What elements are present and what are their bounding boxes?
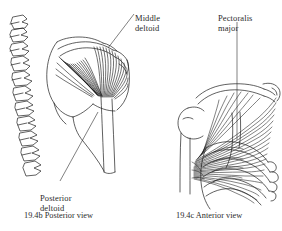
humerus-shaft-anterior bbox=[180, 133, 190, 194]
label-pectoralis-major-line2: major bbox=[218, 23, 253, 33]
leader-line-middle-deltoid bbox=[108, 14, 134, 48]
anterior-view-illustration bbox=[178, 83, 280, 209]
vertebral-column-drawing bbox=[10, 15, 41, 176]
torso-contour-posterior bbox=[54, 103, 104, 171]
humeral-head-anterior bbox=[178, 107, 204, 139]
label-posterior-deltoid-line1: Posterior bbox=[40, 193, 72, 203]
spine-of-scapula bbox=[58, 42, 117, 57]
posterior-deltoid-fibers bbox=[56, 57, 102, 97]
humerus-shaft bbox=[101, 97, 115, 174]
label-pectoralis-major: Pectoralis major bbox=[218, 3, 253, 43]
posterior-view-illustration bbox=[10, 15, 129, 176]
anatomy-figure-page: Middle deltoid Pectoralis major Posterio… bbox=[0, 0, 282, 231]
leader-line-posterior-deltoid bbox=[60, 112, 98, 181]
label-middle-deltoid-line1: Middle bbox=[135, 13, 160, 23]
caption-posterior-view: 19.4b Posterior view bbox=[24, 211, 93, 220]
clavicle bbox=[196, 84, 275, 104]
label-middle-deltoid: Middle deltoid bbox=[135, 3, 160, 43]
label-middle-deltoid-line2: deltoid bbox=[135, 23, 160, 33]
rib-cage bbox=[203, 142, 278, 205]
label-pectoralis-major-line1: Pectoralis bbox=[218, 13, 253, 23]
caption-anterior-view: 19.4c Anterior view bbox=[176, 211, 242, 220]
